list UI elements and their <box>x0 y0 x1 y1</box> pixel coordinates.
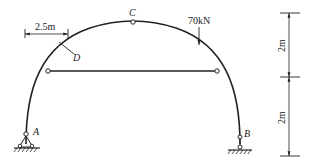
hinge-c <box>131 20 135 24</box>
dimension-vertical <box>280 13 300 156</box>
label-a: A <box>32 126 40 137</box>
dimension-label-upper: 2m <box>276 39 287 52</box>
load-label: 70kN <box>188 15 210 26</box>
point-d-tick <box>59 42 74 54</box>
label-b: B <box>244 128 250 139</box>
dimension-label-lower: 2m <box>276 111 287 124</box>
arch <box>26 21 240 144</box>
label-c: C <box>129 7 136 18</box>
dimension-label-2-5m: 2.5m <box>35 21 56 32</box>
hinge-tie-right <box>215 69 219 73</box>
arch-diagram: 2.5m C D 70kN A B 2m 2m <box>0 0 309 166</box>
label-d: D <box>72 52 81 63</box>
hinge-tie-left <box>46 69 50 73</box>
